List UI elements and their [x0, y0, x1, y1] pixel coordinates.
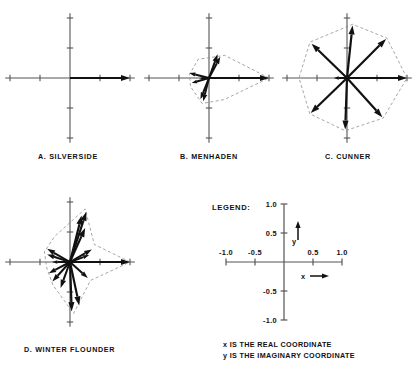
vector-shaft — [317, 78, 347, 107]
vector-arrowhead — [52, 260, 57, 264]
legend-y-tick-label: 1.0 — [266, 200, 277, 209]
legend-x-arrowhead — [322, 273, 329, 278]
panel-cunner — [277, 8, 417, 148]
panel-a-label: A. SILVERSIDE — [38, 152, 98, 161]
vector-shaft — [347, 45, 380, 78]
panel-d-label: D. WINTER FLOUNDER — [24, 345, 115, 354]
vector-shaft — [347, 34, 352, 78]
legend-y-arrowhead — [295, 221, 300, 228]
legend-y-tick-label: 0.5 — [266, 229, 277, 238]
vector-arrowhead — [203, 94, 208, 102]
panel-b-plot — [139, 8, 279, 148]
vector-arrowhead — [192, 80, 198, 84]
vector-arrowhead — [68, 302, 74, 311]
legend-caption-imaginary: y IS THE IMAGINARY COORDINATE — [223, 351, 355, 362]
legend-x-tick-label: 0.5 — [307, 248, 318, 257]
vector-arrowhead — [342, 120, 348, 129]
panel-a-plot — [0, 8, 140, 148]
legend-y-axis-label: y — [292, 237, 297, 246]
legend-x-tick-label: 1.0 — [336, 248, 347, 257]
legend-y-tick-label: -1.0 — [263, 316, 277, 325]
vector-arrowhead — [47, 254, 55, 259]
vector-arrowhead — [189, 73, 195, 77]
vector-shaft — [347, 78, 376, 111]
vector-arrowhead — [349, 25, 355, 34]
vector-arrowhead — [334, 76, 339, 79]
vector-arrowhead — [74, 296, 80, 305]
vector-shaft — [318, 50, 347, 78]
legend-x-tick-label: -1.0 — [219, 248, 233, 257]
panel-winter-flounder — [0, 192, 140, 332]
legend-x-tick-label: -0.5 — [248, 248, 262, 257]
vector-arrowhead — [83, 255, 89, 259]
legend-x-axis-label: x — [301, 272, 306, 281]
panel-menhaden — [139, 8, 279, 148]
vector-arrowhead — [61, 279, 66, 288]
vector-shaft — [346, 78, 347, 121]
vector-arrowhead — [49, 268, 57, 274]
vector-arrowhead — [76, 215, 82, 224]
panel-c-plot — [277, 8, 417, 148]
vector-arrowhead — [84, 249, 92, 255]
legend-y-tick-label: -0.5 — [263, 287, 277, 296]
vector-arrowhead — [260, 75, 269, 81]
legend-axes: -1.0-0.50.51.01.00.5-0.5-1.0yx — [196, 196, 396, 336]
legend-plot: -1.0-0.50.51.01.00.5-0.5-1.0yx — [196, 196, 396, 336]
panel-b-label: B. MENHADEN — [180, 152, 238, 161]
panel-silverside — [0, 8, 140, 148]
panel-d-plot — [0, 192, 140, 332]
panel-c-label: C. CUNNER — [325, 152, 371, 161]
vector-arrowhead — [47, 249, 55, 255]
vector-arrowhead — [121, 75, 130, 81]
vector-diagram-figure: A. SILVERSIDE B. MENHADEN C. CUNNER D. W… — [0, 0, 417, 367]
legend-caption-real: x IS THE REAL COORDINATE — [223, 340, 332, 351]
